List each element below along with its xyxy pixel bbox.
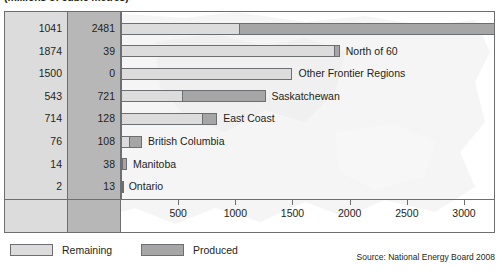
bar-segment-remaining xyxy=(121,23,240,35)
bar-segment-remaining xyxy=(121,136,130,148)
bar-segment-produced xyxy=(130,136,142,148)
legend-item-remaining: Remaining xyxy=(10,244,112,256)
axis-tick-label: 2500 xyxy=(395,207,418,219)
stacked-bar xyxy=(121,45,340,57)
stacked-bar xyxy=(121,23,495,35)
legend-item-produced: Produced xyxy=(141,244,238,256)
bar-segment-produced xyxy=(183,90,265,102)
axis-tick xyxy=(464,199,465,205)
axis-tick-label: 2000 xyxy=(338,207,361,219)
table-row: 187439North of 60 xyxy=(5,40,494,63)
produced-value: 108 xyxy=(68,130,115,153)
legend-swatch-remaining xyxy=(10,244,53,256)
bar-segment-produced xyxy=(123,158,127,170)
bar-segment-produced xyxy=(203,113,218,125)
table-row: 543721Saskatchewan xyxy=(5,85,494,108)
axis-tick-label: 1500 xyxy=(281,207,304,219)
stacked-bar xyxy=(121,136,142,148)
bar-segment-remaining xyxy=(121,45,335,57)
remaining-value: 714 xyxy=(5,107,62,130)
table-row: 76108British Columbia xyxy=(5,130,494,153)
remaining-value: 2 xyxy=(5,175,62,198)
axis-tick-label: 500 xyxy=(169,207,187,219)
category-label: East Coast xyxy=(223,107,274,130)
produced-value: 13 xyxy=(68,175,115,198)
bar-segment-remaining xyxy=(121,90,183,102)
produced-value: 2481 xyxy=(68,17,115,40)
category-label: British Columbia xyxy=(148,130,224,153)
table-row: 714128East Coast xyxy=(5,107,494,130)
table-row: 15000Other Frontier Regions xyxy=(5,62,494,85)
table-row: 213Ontario xyxy=(5,175,494,198)
source-note: Source: National Energy Board 2008 xyxy=(357,252,495,262)
remaining-value: 76 xyxy=(5,130,62,153)
axis-tick xyxy=(292,199,293,205)
axis-tick xyxy=(178,199,179,205)
produced-value: 39 xyxy=(68,40,115,63)
axis-tick xyxy=(407,199,408,205)
remaining-value: 543 xyxy=(5,85,62,108)
bar-segment-produced xyxy=(240,23,495,35)
table-row: 10412481Alberta xyxy=(5,17,494,40)
chart-plot-area: 10412481Alberta187439North of 6015000Oth… xyxy=(4,11,495,233)
stacked-bar xyxy=(121,90,266,102)
remaining-value: 14 xyxy=(5,153,62,176)
bar-segment-remaining xyxy=(121,113,203,125)
table-row: 1438Manitoba xyxy=(5,153,494,176)
stacked-bar xyxy=(121,68,292,80)
remaining-value: 1041 xyxy=(5,17,62,40)
axis-tick xyxy=(350,199,351,205)
chart-root: (millions of cubic metres) 10412481Alber… xyxy=(0,0,501,271)
stacked-bar xyxy=(121,181,123,193)
stacked-bar xyxy=(121,158,127,170)
produced-value: 128 xyxy=(68,107,115,130)
category-label: Ontario xyxy=(129,175,163,198)
category-label: Manitoba xyxy=(133,153,176,176)
bar-segment-remaining xyxy=(121,68,292,80)
bar-segment-produced xyxy=(123,181,124,193)
produced-value: 721 xyxy=(68,85,115,108)
legend-label-produced: Produced xyxy=(193,244,238,256)
x-axis-line xyxy=(5,199,494,200)
produced-value: 38 xyxy=(68,153,115,176)
stacked-bar xyxy=(121,113,217,125)
remaining-value: 1874 xyxy=(5,40,62,63)
legend-label-remaining: Remaining xyxy=(62,244,112,256)
axis-tick-label: 1000 xyxy=(224,207,247,219)
category-label: North of 60 xyxy=(346,40,398,63)
bar-segment-produced xyxy=(335,45,339,57)
category-label: Other Frontier Regions xyxy=(298,62,405,85)
produced-value: 0 xyxy=(68,62,115,85)
remaining-value: 1500 xyxy=(5,62,62,85)
chart-title: (millions of cubic metres) xyxy=(4,0,129,3)
category-label: Saskatchewan xyxy=(272,85,340,108)
axis-tick xyxy=(235,199,236,205)
axis-tick-label: 3000 xyxy=(452,207,475,219)
legend-swatch-produced xyxy=(141,244,184,256)
